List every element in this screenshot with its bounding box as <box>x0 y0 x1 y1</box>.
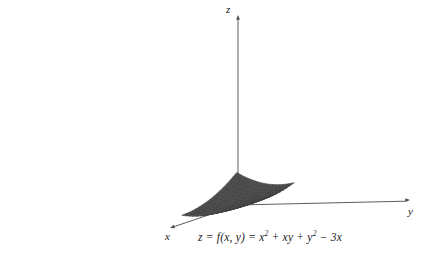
axis-label-y: y <box>408 205 413 217</box>
axis-label-x: x <box>165 230 170 242</box>
equation-text: z = f(x, y) = x2 + xy + y2 − 3x <box>198 231 342 243</box>
equation-caption: z = f(x, y) = x2 + xy + y2 − 3x <box>198 229 342 243</box>
surface-mesh <box>182 172 294 216</box>
surface-plot-figure: z y x z = f(x, y) = x2 + xy + y2 − 3x <box>0 0 433 260</box>
surface-plot-canvas <box>0 0 433 260</box>
axis-label-z: z <box>226 3 230 15</box>
